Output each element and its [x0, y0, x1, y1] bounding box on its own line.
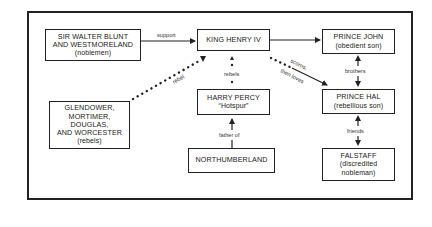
node-falstaff: FALSTAFF (discredited nobleman) — [322, 148, 395, 181]
node-nickname: “Hotspur” — [218, 102, 248, 110]
node-role: (rebellious son) — [334, 102, 383, 110]
node-name: FALSTAFF — [341, 152, 377, 160]
edge-support: support — [141, 32, 195, 41]
edge-label-then-loves: then loves — [280, 68, 306, 85]
node-role: (discredited nobleman) — [331, 160, 386, 176]
node-blunt-westmoreland: SIR WALTER BLUNT AND WESTMORELAND (noble… — [45, 29, 141, 61]
node-rebels: GLENDOWER, MORTIMER, DOUGLAS, AND WORCES… — [49, 101, 130, 149]
edge-label-friends: friends — [347, 128, 364, 134]
node-role: (rebels) — [77, 137, 102, 145]
node-prince-hal: PRINCE HAL (rebellious son) — [322, 89, 395, 114]
edge-label-rebels: rebels — [224, 71, 239, 77]
arrowhead-icon — [200, 56, 206, 62]
edge-label-support: support — [157, 32, 176, 38]
node-role: (obedient son) — [335, 42, 381, 50]
node-name: PRINCE HAL — [336, 93, 380, 101]
node-name: AND WESTMORELAND — [53, 41, 133, 49]
edge-label-father-of: father of — [219, 132, 240, 138]
node-name: NORTHUMBERLAND — [196, 156, 268, 164]
edge-label-scorns: scorns, — [290, 58, 309, 72]
node-prince-john: PRINCE JOHN (obedient son) — [322, 29, 395, 54]
edge-friends: friends — [347, 115, 364, 146]
edge-father-of: father of — [219, 119, 240, 148]
edge-brothers: brothers — [345, 55, 366, 87]
node-northumberland: NORTHUMBERLAND — [188, 148, 275, 173]
node-role: (noblemen) — [75, 49, 111, 57]
node-harry-percy: HARRY PERCY “Hotspur” — [197, 89, 270, 115]
node-name: HARRY PERCY — [207, 94, 260, 102]
node-name: AND WORCESTER — [57, 129, 122, 137]
edge-percy-rebels: rebels — [224, 56, 239, 83]
node-name: KING HENRY IV — [206, 36, 261, 44]
edge-rebel: rebel — [133, 56, 206, 99]
node-king-henry: KING HENRY IV — [197, 29, 270, 51]
edge-scorns-then-loves: scorns, then loves — [271, 58, 327, 85]
node-name: PRINCE JOHN — [334, 33, 384, 41]
edge-label-brothers: brothers — [345, 68, 366, 74]
